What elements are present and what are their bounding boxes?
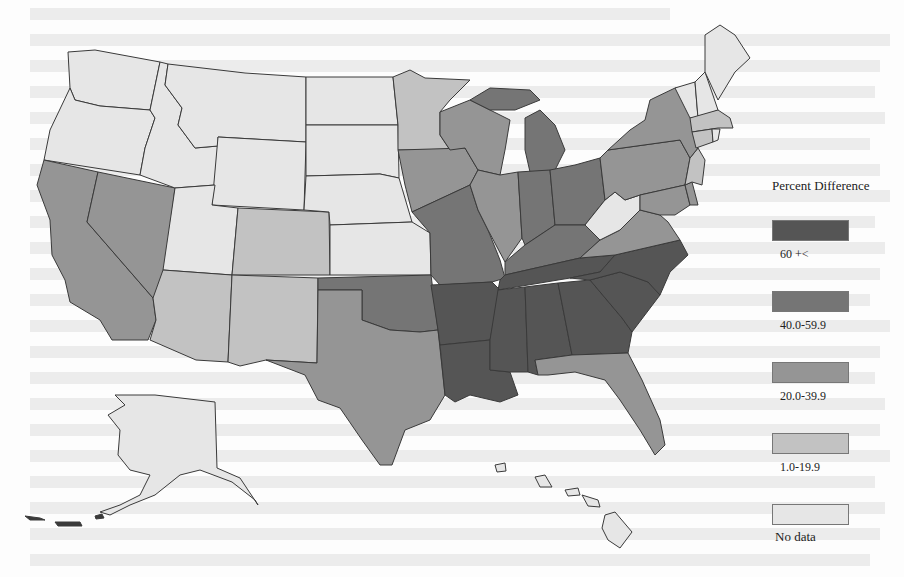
state-nd bbox=[306, 77, 398, 125]
legend-label: 1.0-19.9 bbox=[780, 460, 902, 474]
state-ak bbox=[100, 395, 258, 515]
state-wy bbox=[212, 137, 306, 210]
legend-swatch bbox=[772, 433, 849, 454]
state-ar bbox=[431, 282, 500, 345]
legend-item-20-39: 20.0-39.9 bbox=[772, 362, 902, 403]
state-ri bbox=[712, 129, 720, 142]
state-az bbox=[150, 270, 232, 362]
state-sd bbox=[306, 125, 399, 178]
legend-label: 60 +< bbox=[780, 247, 902, 261]
legend-item-no-data: No data bbox=[772, 504, 902, 543]
scanned-page: Percent Difference 60 +< 40.0-59.9 20.0-… bbox=[0, 0, 904, 577]
state-nm bbox=[228, 275, 318, 366]
state-wa bbox=[68, 50, 160, 110]
state-hi bbox=[495, 463, 632, 548]
state-mt bbox=[165, 64, 306, 148]
legend-swatch bbox=[772, 504, 849, 525]
state-me bbox=[705, 25, 750, 100]
legend-swatch bbox=[772, 291, 849, 312]
legend-title: Percent Difference bbox=[772, 178, 902, 194]
legend-item-40-59: 40.0-59.9 bbox=[772, 291, 902, 332]
alaska-aleutians bbox=[25, 514, 104, 526]
state-ks bbox=[330, 222, 431, 275]
legend-label: 20.0-39.9 bbox=[780, 389, 902, 403]
legend-item-1-19: 1.0-19.9 bbox=[772, 433, 902, 474]
legend-swatch bbox=[772, 362, 849, 383]
legend-label: No data bbox=[775, 529, 902, 543]
map-legend: Percent Difference 60 +< 40.0-59.9 20.0-… bbox=[772, 178, 902, 573]
state-ct bbox=[692, 129, 713, 148]
state-co bbox=[232, 208, 330, 275]
legend-swatch bbox=[772, 220, 849, 241]
legend-item-60-plus: 60 +< bbox=[772, 220, 902, 261]
us-choropleth-map bbox=[0, 0, 904, 577]
legend-label: 40.0-59.9 bbox=[780, 318, 902, 332]
state-fl bbox=[535, 353, 665, 455]
